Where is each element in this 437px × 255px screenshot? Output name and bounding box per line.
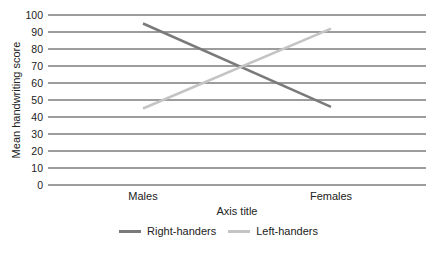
series-line-left-handers <box>143 29 331 109</box>
y-tick-label: 30 <box>31 128 43 140</box>
gridlines <box>48 15 426 185</box>
y-axis-label: Mean handwriting score <box>10 42 22 159</box>
x-axis-categories: MalesFemales <box>128 190 352 202</box>
y-tick-label: 50 <box>31 94 43 106</box>
y-tick-label: 10 <box>31 162 43 174</box>
legend-item-right-handers[interactable]: Right-handers <box>119 225 216 237</box>
legend-item-left-handers[interactable]: Left-handers <box>228 225 318 237</box>
series-line-right-handers <box>143 24 331 107</box>
y-tick-label: 90 <box>31 26 43 38</box>
y-tick-label: 60 <box>31 77 43 89</box>
legend-swatch-left-handers <box>228 230 250 233</box>
y-tick-label: 40 <box>31 111 43 123</box>
x-category-label: Females <box>310 190 353 202</box>
line-chart: 0102030405060708090100 Mean handwriting … <box>0 0 437 255</box>
x-category-label: Males <box>128 190 158 202</box>
legend-label: Right-handers <box>147 225 216 237</box>
y-axis-ticks: 0102030405060708090100 <box>25 9 43 191</box>
legend-label: Left-handers <box>256 225 318 237</box>
y-tick-label: 0 <box>37 179 43 191</box>
x-axis-label: Axis title <box>217 205 258 217</box>
y-tick-label: 80 <box>31 43 43 55</box>
y-tick-label: 70 <box>31 60 43 72</box>
legend: Right-handers Left-handers <box>0 225 437 237</box>
legend-swatch-right-handers <box>119 230 141 233</box>
y-tick-label: 100 <box>25 9 43 21</box>
y-tick-label: 20 <box>31 145 43 157</box>
